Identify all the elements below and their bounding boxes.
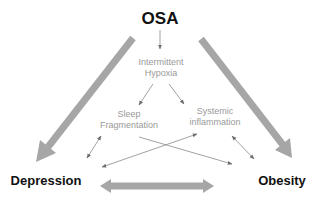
arrow-sleep-to-obesity xyxy=(139,137,232,164)
thick-arrow-osa-to-depression xyxy=(36,38,133,162)
thick-arrow-osa-to-obesity xyxy=(201,39,292,158)
node-hypoxia-line1: Intermittent xyxy=(138,57,184,67)
node-depression: Depression xyxy=(11,173,82,188)
node-inflammation-line1: Systemic xyxy=(197,106,234,116)
arrow-inflammation-obesity xyxy=(232,136,254,159)
arrow-sleep-depression xyxy=(87,136,101,158)
node-hypoxia-line2: Hypoxia xyxy=(145,68,178,78)
arrow-hypoxia-to-inflammation xyxy=(169,84,184,104)
node-sleep-line1: Sleep xyxy=(117,109,140,119)
node-osa: OSA xyxy=(142,9,179,28)
arrow-hypoxia-to-sleep xyxy=(139,84,153,105)
node-obesity: Obesity xyxy=(258,173,306,188)
arrow-inflammation-depression xyxy=(102,134,197,167)
osa-comorbidity-diagram: OSA Intermittent Hypoxia Sleep Fragmenta… xyxy=(0,0,321,203)
node-sleep-line2: Fragmentation xyxy=(100,120,158,130)
node-inflammation-line2: inflammation xyxy=(189,117,240,127)
thick-arrow-depression-obesity xyxy=(100,179,214,193)
